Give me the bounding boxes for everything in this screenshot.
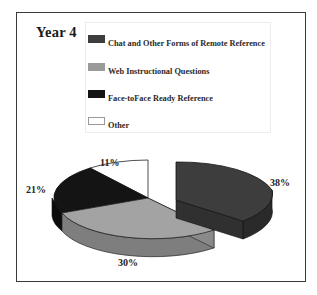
label-other: 11% <box>100 157 119 168</box>
pie-chart: 11% 21% 38% 30% <box>0 0 317 295</box>
label-web: 30% <box>118 257 138 268</box>
label-face: 21% <box>26 184 46 195</box>
label-chat: 38% <box>270 177 290 188</box>
